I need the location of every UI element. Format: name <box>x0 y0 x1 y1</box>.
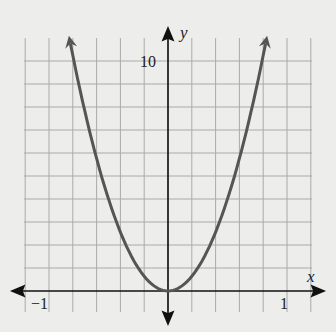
chart-canvas: y x 10 −1 1 <box>0 0 336 332</box>
y-tick-10: 10 <box>140 53 156 70</box>
x-tick-1: 1 <box>280 295 288 312</box>
x-axis-label: x <box>306 267 315 286</box>
y-axis-label: y <box>178 23 188 42</box>
parabola-chart: y x 10 −1 1 <box>0 0 336 332</box>
x-tick-neg1: −1 <box>31 295 48 312</box>
